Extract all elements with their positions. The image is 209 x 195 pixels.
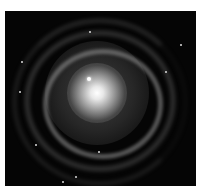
galaxy-image [5,11,196,186]
star [19,91,21,93]
star [165,71,167,73]
star [75,176,77,178]
star [98,151,100,153]
star [180,44,182,46]
galaxy-core [67,63,127,123]
star [21,61,23,63]
foreground-star [87,77,91,81]
star [89,31,91,33]
star [35,144,37,146]
star [62,181,64,183]
